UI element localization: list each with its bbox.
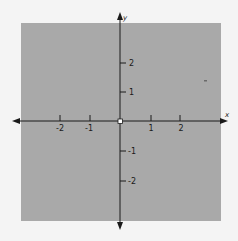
y-axis-down-arrow-icon xyxy=(117,222,123,230)
x-tick-label: -2 xyxy=(56,124,64,133)
y-tick-label: 1 xyxy=(129,88,134,97)
y-tick-label: 2 xyxy=(129,59,134,68)
y-tick-label: -2 xyxy=(128,177,136,186)
coordinate-plane: x y -2 -1 1 2 2 1 -1 -2 xyxy=(0,0,238,241)
x-tick-label: 1 xyxy=(148,124,153,133)
speck-mark xyxy=(204,80,207,82)
y-tick-label: -1 xyxy=(128,147,136,156)
y-axis-label: y xyxy=(122,14,128,22)
x-axis-label: x xyxy=(224,111,230,119)
x-axis-left-arrow-icon xyxy=(12,118,20,124)
origin-open-point xyxy=(118,119,123,124)
x-tick-label: 2 xyxy=(178,124,183,133)
x-tick-label: -1 xyxy=(85,124,93,133)
